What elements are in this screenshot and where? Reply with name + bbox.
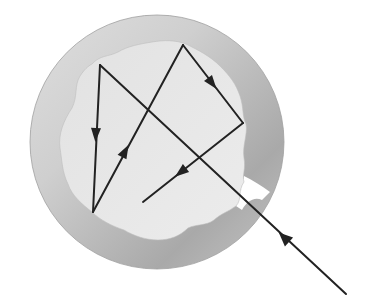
cavity-reflection-diagram	[0, 0, 365, 307]
